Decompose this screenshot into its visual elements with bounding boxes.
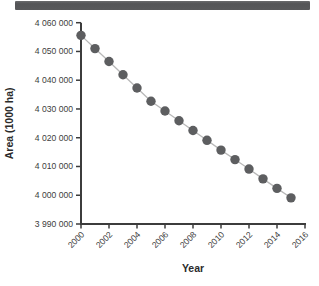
y-tick-label: 4 040 000 (35, 75, 73, 85)
data-point (286, 193, 295, 202)
x-tick-label: 2000 (66, 229, 87, 250)
data-point (174, 116, 183, 125)
x-tick-label: 2002 (94, 229, 115, 250)
y-axis-title: Area (1000 ha) (3, 87, 15, 159)
y-tick-label: 4 060 000 (35, 18, 73, 28)
y-tick-label: 4 010 000 (35, 161, 73, 171)
x-tick-label: 2006 (150, 229, 171, 250)
data-point (244, 164, 253, 173)
data-point (118, 70, 127, 79)
data-point (104, 57, 113, 66)
x-tick-label: 2008 (178, 229, 199, 250)
data-point (258, 174, 267, 183)
data-point (272, 184, 281, 193)
y-tick-label: 4 030 000 (35, 104, 73, 114)
data-point (146, 97, 155, 106)
x-tick-label: 2012 (234, 229, 255, 250)
x-tick-label: 2010 (206, 229, 227, 250)
screenshot-root: 3 990 0004 000 0004 010 0004 020 0004 03… (0, 0, 319, 286)
data-point (132, 83, 141, 92)
y-tick-label: 3 990 000 (35, 219, 73, 229)
data-point (230, 155, 239, 164)
data-point (216, 145, 225, 154)
data-point (160, 106, 169, 115)
data-point (76, 31, 85, 40)
data-point (202, 136, 211, 145)
data-point (188, 126, 197, 135)
x-tick-label: 2004 (122, 229, 143, 250)
y-tick-label: 4 050 000 (35, 46, 73, 56)
y-tick-label: 4 020 000 (35, 133, 73, 143)
x-axis-title: Year (182, 262, 204, 274)
y-tick-label: 4 000 000 (35, 190, 73, 200)
x-tick-label: 2014 (262, 229, 283, 250)
chart-canvas: 3 990 0004 000 0004 010 0004 020 0004 03… (0, 0, 319, 286)
area-vs-year-chart: 3 990 0004 000 0004 010 0004 020 0004 03… (0, 0, 319, 286)
x-tick-label: 2016 (290, 229, 311, 250)
data-point (90, 44, 99, 53)
